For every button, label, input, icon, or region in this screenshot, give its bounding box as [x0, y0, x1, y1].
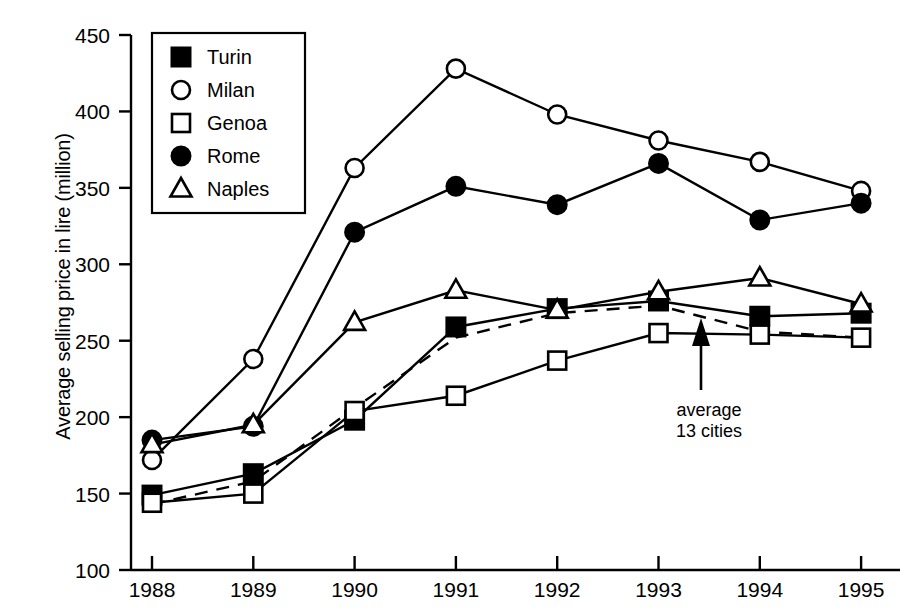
- x-tick-label: 1988: [129, 578, 176, 601]
- data-point-naples: [445, 279, 466, 298]
- data-point-rome: [345, 223, 364, 242]
- data-point-rome: [548, 195, 567, 214]
- data-point-genoa: [143, 494, 161, 512]
- x-tick-label: 1994: [736, 578, 783, 601]
- x-tick-label: 1992: [534, 578, 581, 601]
- annotation-line-2: 13 cities: [644, 421, 774, 442]
- y-tick-label: 100: [75, 559, 110, 582]
- legend-marker-genoa: [172, 114, 190, 132]
- data-point-genoa: [244, 485, 262, 503]
- data-point-genoa: [751, 326, 769, 344]
- legend-label: Naples: [207, 178, 269, 200]
- data-point-milan: [548, 105, 566, 123]
- chart-figure: Average selling price in lire (million) …: [0, 0, 906, 610]
- data-point-turin: [446, 317, 465, 336]
- data-point-milan: [650, 131, 668, 149]
- data-point-rome: [649, 154, 668, 173]
- y-tick-label: 300: [75, 253, 110, 276]
- x-axis-tick-labels: 19881989199019911992199319941995: [129, 578, 885, 601]
- chart-canvas: 100150200250300350400450 198819891990199…: [0, 0, 906, 610]
- annotation-average-13-cities: average 13 cities: [644, 400, 774, 442]
- data-point-milan: [143, 451, 161, 469]
- legend-marker-milan: [172, 81, 190, 99]
- annotation-line-1: average: [644, 400, 774, 421]
- legend: TurinMilanGenoaRomeNaples: [152, 33, 305, 213]
- data-point-genoa: [346, 402, 364, 420]
- y-tick-label: 450: [75, 24, 110, 47]
- data-point-rome: [852, 194, 871, 213]
- legend-label: Genoa: [207, 112, 268, 134]
- data-point-genoa: [650, 324, 668, 342]
- data-point-genoa: [852, 329, 870, 347]
- y-tick-label: 400: [75, 100, 110, 123]
- x-tick-label: 1991: [433, 578, 480, 601]
- data-point-turin: [750, 307, 769, 326]
- y-tick-label: 200: [75, 406, 110, 429]
- legend-label: Milan: [207, 79, 255, 101]
- data-point-genoa: [447, 387, 465, 405]
- data-point-rome: [446, 177, 465, 196]
- data-point-milan: [447, 60, 465, 78]
- legend-item-milan: Milan: [172, 79, 255, 101]
- x-tick-label: 1993: [635, 578, 682, 601]
- legend-item-rome: Rome: [172, 145, 261, 167]
- legend-label: Turin: [207, 46, 252, 68]
- y-tick-label: 250: [75, 330, 110, 353]
- data-point-milan: [346, 159, 364, 177]
- legend-marker-rome: [172, 147, 191, 166]
- x-axis-ticks: [152, 556, 861, 570]
- x-tick-label: 1989: [230, 578, 277, 601]
- data-point-rome: [750, 210, 769, 229]
- y-tick-label: 350: [75, 177, 110, 200]
- data-point-naples: [749, 267, 770, 286]
- data-point-milan: [244, 350, 262, 368]
- x-tick-label: 1995: [838, 578, 885, 601]
- legend-item-genoa: Genoa: [172, 112, 268, 134]
- data-point-milan: [751, 153, 769, 171]
- x-tick-label: 1990: [331, 578, 378, 601]
- y-axis-ticks: [119, 35, 131, 570]
- y-axis-tick-labels: 100150200250300350400450: [75, 24, 110, 582]
- data-point-genoa: [548, 352, 566, 370]
- legend-label: Rome: [207, 145, 260, 167]
- legend-item-turin: Turin: [172, 46, 252, 68]
- data-point-turin: [244, 464, 263, 483]
- legend-marker-turin: [172, 48, 191, 67]
- annotation-arrow-icon: [692, 318, 710, 390]
- y-tick-label: 150: [75, 483, 110, 506]
